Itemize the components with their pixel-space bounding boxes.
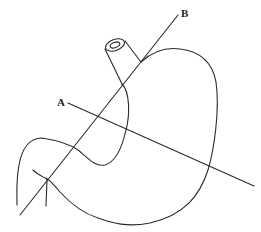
stomach-lesser-curvature	[17, 84, 129, 205]
pylorus-curve	[33, 170, 48, 180]
esophagus	[104, 36, 141, 84]
line-a	[68, 103, 254, 186]
label-b: B	[181, 8, 188, 19]
pylorus-stem	[46, 180, 47, 206]
stomach-diagram	[0, 0, 261, 232]
line-b	[20, 15, 178, 215]
label-a: A	[57, 97, 65, 108]
stomach-greater-curvature	[46, 49, 217, 225]
